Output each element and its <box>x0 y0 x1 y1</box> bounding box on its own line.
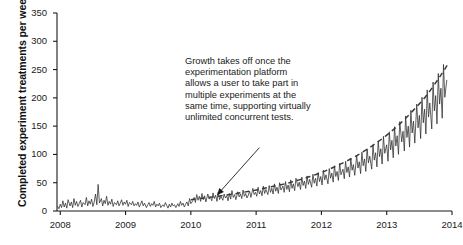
x-axis-ticks <box>60 211 452 215</box>
y-axis-ticks <box>53 13 57 211</box>
annotation-line: unlimited concurrent tests. <box>185 112 337 123</box>
annotation-line: Growth takes off once the <box>185 56 337 67</box>
annotation-line: multiple experiments at the <box>185 90 337 101</box>
annotation-line: allows a user to take part in <box>185 78 337 89</box>
growth-annotation-text: Growth takes off once theexperimentation… <box>185 56 337 123</box>
annotation-line: same time, supporting virtually <box>185 101 337 112</box>
annotation-line: experimentation platform <box>185 67 337 78</box>
annotation-arrow-shaft <box>220 148 259 192</box>
chart-figure: Completed experiment treatments per week… <box>0 0 463 245</box>
